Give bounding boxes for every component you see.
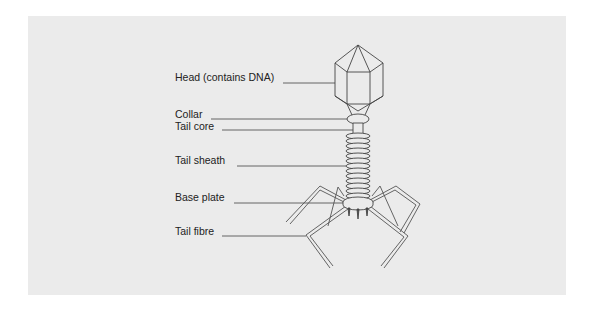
head-capsid (335, 45, 383, 115)
leader-lines (211, 83, 354, 236)
base-plate (343, 197, 373, 210)
collar (347, 114, 369, 124)
tail-sheath (346, 133, 370, 199)
bacteriophage-illustration (0, 0, 595, 310)
